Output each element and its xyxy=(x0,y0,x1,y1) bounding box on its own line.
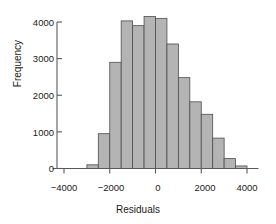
histogram-bar xyxy=(213,138,224,168)
histogram-bar xyxy=(201,114,212,168)
histogram-bar xyxy=(121,21,132,169)
histogram-bar xyxy=(224,159,235,169)
x-tick-label-4000: 4000 xyxy=(225,182,269,193)
histogram-bar xyxy=(133,26,144,169)
histogram-bar xyxy=(178,78,189,169)
y-tick-label-0: 0 xyxy=(20,163,54,174)
histogram-bar xyxy=(156,18,167,168)
y-tick-label-1000: 1000 xyxy=(20,127,54,138)
x-tick-label-neg2000: −2000 xyxy=(89,182,133,193)
bars-group xyxy=(87,17,247,169)
histogram-bar xyxy=(98,134,109,169)
y-tick-label-2000: 2000 xyxy=(20,90,54,101)
x-axis-title: Residuals xyxy=(0,204,276,215)
histogram-bar xyxy=(167,44,178,169)
histogram-bar xyxy=(144,17,155,169)
y-tick-label-4000: 4000 xyxy=(20,17,54,28)
x-tick-label-neg4000: −4000 xyxy=(42,182,86,193)
y-tick-label-3000: 3000 xyxy=(20,53,54,64)
x-tick-label-2000: 2000 xyxy=(183,182,227,193)
histogram-bar xyxy=(110,62,121,168)
histogram-bar xyxy=(190,102,201,169)
histogram-figure: Frequency Residuals 4000 3000 2000 1000 … xyxy=(0,0,276,224)
x-tick-label-0: 0 xyxy=(136,182,180,193)
